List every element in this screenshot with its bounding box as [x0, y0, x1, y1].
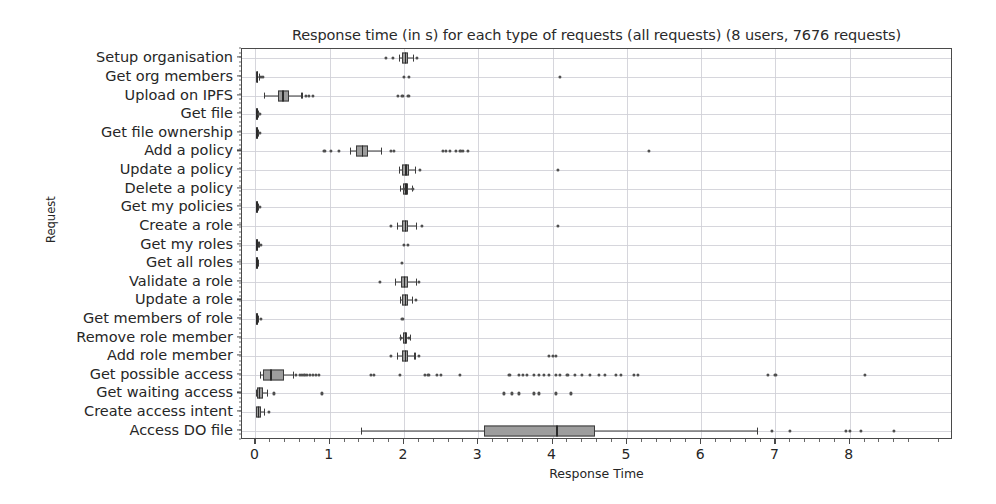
x-tick-minor — [656, 439, 657, 442]
outlier-get-possible-access — [555, 373, 558, 376]
y-tick-minor — [239, 144, 242, 145]
cap-low-add-role-member — [397, 353, 398, 360]
x-tick-minor — [715, 439, 716, 442]
y-tick-minor — [239, 218, 242, 219]
x-tick-label-4: 4 — [547, 446, 556, 462]
x-tick-minor — [819, 439, 820, 442]
y-tick-minor — [239, 103, 242, 104]
x-tick-label-1: 1 — [324, 446, 333, 462]
x-tick-label-5: 5 — [621, 446, 630, 462]
x-tick-minor — [269, 439, 270, 442]
y-tick-label-create-access-intent: Create access intent — [84, 404, 233, 419]
y-tick-label-get-my-policies: Get my policies — [121, 199, 233, 214]
outlier-add-role-member — [389, 355, 392, 358]
outlier-get-possible-access — [318, 373, 321, 376]
y-tick-label-get-possible-access: Get possible access — [90, 367, 233, 382]
box-get-possible-access — [263, 369, 284, 380]
median-create-access-intent — [258, 407, 259, 418]
gridline-horizontal — [242, 356, 951, 357]
y-tick-minor — [239, 57, 242, 58]
outlier-add-a-policy — [466, 150, 469, 153]
y-tick-label-get-org-members: Get org members — [105, 69, 233, 84]
x-tick-mark — [477, 439, 478, 444]
outlier-add-a-policy — [337, 150, 340, 153]
x-tick-minor — [566, 439, 567, 442]
cap-low-get-possible-access — [260, 371, 261, 378]
y-tick-minor — [239, 89, 242, 90]
y-axis-tick-labels: Setup organisationGet org membersUpload … — [0, 48, 233, 439]
gridline-horizontal — [242, 77, 951, 78]
y-tick-minor — [239, 402, 242, 403]
outlier-get-possible-access — [542, 373, 545, 376]
y-tick-mark — [237, 224, 241, 225]
outlier-get-all-roles — [400, 262, 403, 265]
y-tick-minor — [239, 351, 242, 352]
outlier-get-waiting-access — [518, 392, 521, 395]
cap-low-delete-a-policy — [400, 185, 401, 192]
x-tick-minor — [373, 439, 374, 442]
y-tick-minor — [239, 393, 242, 394]
y-tick-minor — [239, 222, 242, 223]
outlier-setup-organisation — [416, 57, 419, 60]
outlier-get-possible-access — [295, 373, 298, 376]
x-tick-minor — [581, 439, 582, 442]
outlier-get-waiting-access — [503, 392, 506, 395]
outlier-get-possible-access — [538, 373, 541, 376]
y-tick-minor — [239, 52, 242, 53]
y-tick-minor — [239, 199, 242, 200]
outlier-remove-role-member — [399, 336, 402, 339]
cap-high-upload-on-ipfs — [301, 92, 302, 99]
outlier-get-possible-access — [518, 373, 521, 376]
y-tick-minor — [239, 301, 242, 302]
chart-title: Response time (in s) for each type of re… — [241, 27, 952, 43]
x-tick-minor — [596, 439, 597, 442]
y-tick-minor — [239, 347, 242, 348]
y-tick-label-update-a-role: Update a role — [135, 292, 233, 307]
gridline-horizontal — [242, 207, 951, 208]
gridline-horizontal — [242, 319, 951, 320]
outlier-access-do-file — [848, 429, 851, 432]
x-tick-minor — [908, 439, 909, 442]
y-tick-minor — [239, 434, 242, 435]
gridline-horizontal — [242, 151, 951, 152]
gridline-horizontal — [242, 96, 951, 97]
gridline-vertical — [701, 49, 702, 438]
y-tick-minor — [239, 328, 242, 329]
y-tick-mark — [237, 168, 241, 169]
gridline-horizontal — [242, 170, 951, 171]
outlier-access-do-file — [789, 429, 792, 432]
y-tick-minor — [239, 264, 242, 265]
y-tick-minor — [239, 167, 242, 168]
y-tick-minor — [239, 61, 242, 62]
x-tick-label-3: 3 — [473, 446, 482, 462]
y-tick-minor — [239, 365, 242, 366]
outlier-validate-a-role — [417, 280, 420, 283]
median-get-org-members — [257, 71, 258, 82]
y-tick-label-add-a-policy: Add a policy — [144, 143, 233, 158]
outlier-get-possible-access — [558, 373, 561, 376]
cap-low-create-a-role — [397, 222, 398, 229]
outlier-access-do-file — [844, 429, 847, 432]
y-tick-label-get-file-ownership: Get file ownership — [101, 125, 233, 140]
gridline-horizontal — [242, 58, 951, 59]
x-tick-mark — [774, 439, 775, 444]
x-tick-label-6: 6 — [696, 446, 705, 462]
outlier-add-a-policy — [441, 150, 444, 153]
x-tick-minor — [537, 439, 538, 442]
outlier-get-org-members — [402, 75, 405, 78]
x-tick-minor — [938, 439, 939, 442]
outlier-get-possible-access — [863, 373, 866, 376]
outlier-get-possible-access — [633, 373, 636, 376]
median-setup-organisation — [405, 53, 406, 64]
cap-high-update-a-role — [412, 297, 413, 304]
outlier-get-possible-access — [619, 373, 622, 376]
outlier-get-possible-access — [532, 373, 535, 376]
y-tick-label-delete-a-policy: Delete a policy — [125, 180, 233, 195]
gridline-horizontal — [242, 226, 951, 227]
outlier-get-possible-access — [603, 373, 606, 376]
x-tick-minor — [314, 439, 315, 442]
x-tick-mark — [329, 439, 330, 444]
x-tick-minor — [418, 439, 419, 442]
x-tick-minor — [611, 439, 612, 442]
x-tick-minor — [641, 439, 642, 442]
